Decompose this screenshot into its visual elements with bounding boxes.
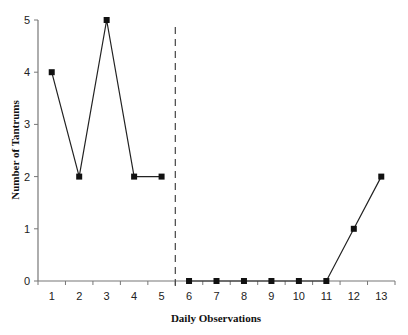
axis-labels: 01234512345678910111213 bbox=[24, 14, 388, 302]
data-point-marker bbox=[268, 278, 274, 284]
data-point-marker bbox=[131, 174, 137, 180]
data-point-marker bbox=[186, 278, 192, 284]
data-point-marker bbox=[296, 278, 302, 284]
line-chart: 01234512345678910111213 Daily Observatio… bbox=[0, 0, 408, 335]
data-point-marker bbox=[351, 226, 357, 232]
y-tick-label: 4 bbox=[24, 66, 30, 78]
x-tick-label: 2 bbox=[76, 290, 82, 302]
data-point-marker bbox=[378, 174, 384, 180]
x-tick-label: 6 bbox=[186, 290, 192, 302]
x-tick-label: 9 bbox=[268, 290, 274, 302]
data-point-marker bbox=[49, 69, 55, 75]
y-tick-label: 1 bbox=[24, 223, 30, 235]
x-tick-label: 13 bbox=[375, 290, 387, 302]
y-axis-title: Number of Tantrums bbox=[9, 100, 21, 200]
x-tick-label: 10 bbox=[293, 290, 305, 302]
x-tick-label: 11 bbox=[321, 290, 332, 302]
x-axis-title: Daily Observations bbox=[171, 312, 262, 324]
x-tick-label: 12 bbox=[348, 290, 360, 302]
data-point-marker bbox=[159, 174, 165, 180]
y-tick-label: 5 bbox=[24, 14, 30, 26]
data-point-marker bbox=[214, 278, 220, 284]
x-tick-label: 7 bbox=[213, 290, 219, 302]
data-point-marker bbox=[241, 278, 247, 284]
x-tick-label: 3 bbox=[104, 290, 110, 302]
y-tick-label: 3 bbox=[24, 118, 30, 130]
data-point-marker bbox=[76, 174, 82, 180]
data-point-marker bbox=[104, 17, 110, 23]
x-tick-label: 4 bbox=[131, 290, 137, 302]
y-tick-label: 0 bbox=[24, 275, 30, 287]
axes bbox=[34, 20, 395, 285]
x-tick-label: 1 bbox=[49, 290, 55, 302]
series-line bbox=[52, 20, 162, 177]
y-tick-label: 2 bbox=[24, 171, 30, 183]
data-series bbox=[49, 17, 385, 284]
x-tick-label: 8 bbox=[241, 290, 247, 302]
data-point-marker bbox=[323, 278, 329, 284]
x-tick-label: 5 bbox=[159, 290, 165, 302]
